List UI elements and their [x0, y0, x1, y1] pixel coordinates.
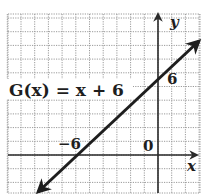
origin-label: 0	[143, 137, 153, 155]
function-graph: G(x) = x + 6 y x 6 −6 0	[0, 0, 216, 196]
x-axis-label: x	[186, 157, 197, 175]
y-tick-6: 6	[167, 70, 177, 88]
function-line	[38, 41, 199, 192]
y-axis-label: y	[169, 13, 180, 31]
x-tick-neg6: −6	[58, 135, 81, 153]
function-label: G(x) = x + 6	[9, 80, 124, 100]
grid	[7, 14, 200, 193]
